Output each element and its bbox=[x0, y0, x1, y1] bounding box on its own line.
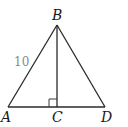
measurement-ab: 10 bbox=[14, 55, 29, 69]
label-d: D bbox=[100, 109, 112, 125]
triangle-diagram: B A C D 10 bbox=[0, 0, 128, 127]
label-b: B bbox=[51, 7, 62, 23]
segment-bd bbox=[57, 25, 105, 107]
label-a: A bbox=[0, 109, 11, 125]
label-c: C bbox=[52, 109, 63, 125]
right-angle-mark bbox=[49, 99, 57, 107]
